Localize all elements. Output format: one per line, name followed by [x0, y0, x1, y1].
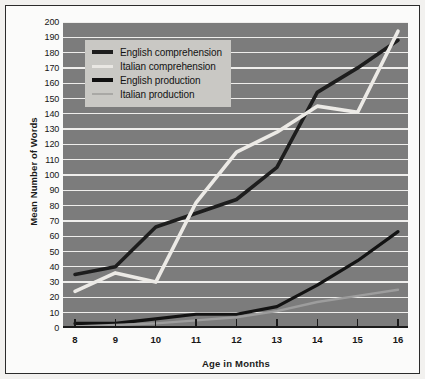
legend-item: English comprehension — [92, 45, 222, 59]
y-tick-label: 130 — [33, 124, 59, 134]
y-tick-label: 180 — [33, 48, 59, 58]
page-frame: Mean Number of Words Age in Months 20019… — [5, 5, 420, 374]
legend-item: English production — [92, 73, 222, 87]
x-tick-label: 13 — [262, 334, 292, 345]
y-tick-label: 190 — [33, 32, 59, 42]
x-tick-label: 16 — [383, 334, 413, 345]
legend-swatch-icon — [92, 50, 113, 54]
legend-label: Italian production — [120, 89, 194, 100]
x-tick-label: 11 — [181, 334, 211, 345]
y-axis-tick-labels: 2001901801701601501401301201101009080706… — [31, 22, 59, 328]
figure-container: Mean Number of Words Age in Months 20019… — [0, 0, 425, 379]
x-tick-label: 9 — [100, 334, 130, 345]
legend-item: Italian production — [92, 87, 222, 101]
y-tick-label: 170 — [33, 63, 59, 73]
x-axis-title: Age in Months — [66, 358, 406, 369]
x-axis-tick-labels: 8910111213141516 — [63, 334, 408, 350]
legend-swatch-icon — [92, 65, 113, 68]
y-tick-label: 30 — [33, 277, 59, 287]
y-tick-label: 20 — [33, 292, 59, 302]
legend-item: Italian comprehension — [92, 59, 222, 73]
plot-wrapper: English comprehensionItalian comprehensi… — [63, 22, 408, 328]
y-tick-label: 110 — [33, 155, 59, 165]
y-tick-label: 0 — [33, 323, 59, 333]
x-tick-label: 14 — [302, 334, 332, 345]
legend-label: English production — [120, 75, 200, 86]
y-tick-label: 200 — [33, 17, 59, 27]
y-tick-label: 100 — [33, 170, 59, 180]
x-tick-label: 10 — [141, 334, 171, 345]
legend-label: English comprehension — [120, 47, 222, 58]
y-tick-label: 120 — [33, 139, 59, 149]
y-tick-label: 150 — [33, 94, 59, 104]
y-tick-label: 60 — [33, 231, 59, 241]
y-tick-label: 90 — [33, 185, 59, 195]
y-tick-label: 70 — [33, 216, 59, 226]
x-tick-label: 8 — [60, 334, 90, 345]
y-tick-label: 80 — [33, 201, 59, 211]
y-tick-label: 40 — [33, 262, 59, 272]
y-tick-label: 10 — [33, 308, 59, 318]
x-tick-label: 15 — [343, 334, 373, 345]
legend-swatch-icon — [92, 78, 113, 82]
y-tick-label: 50 — [33, 247, 59, 257]
y-tick-label: 160 — [33, 78, 59, 88]
chart-legend: English comprehensionItalian comprehensi… — [85, 40, 231, 107]
legend-label: Italian comprehension — [120, 61, 216, 72]
x-tick-label: 12 — [222, 334, 252, 345]
series-line — [75, 232, 398, 324]
legend-swatch-icon — [92, 93, 113, 96]
y-tick-label: 140 — [33, 109, 59, 119]
